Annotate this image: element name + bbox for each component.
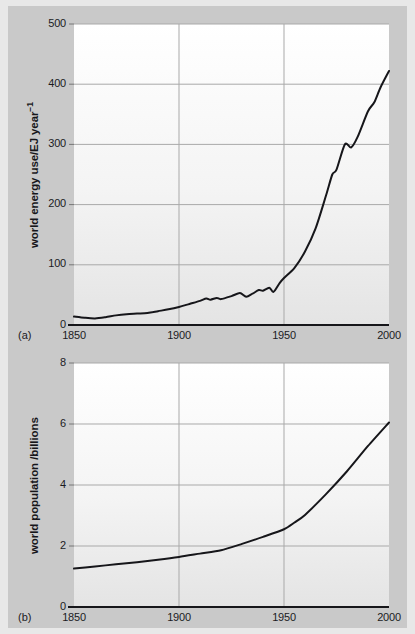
y-tick-label: 100 bbox=[48, 257, 66, 269]
axis-label-y-energy-unit: /EJ year bbox=[28, 111, 40, 154]
chart-panel-a: world energy use/EJ year−1 (a) 010020030… bbox=[8, 6, 407, 346]
x-tick-label: 1850 bbox=[44, 611, 104, 623]
panel-tag-b: (b) bbox=[18, 611, 31, 623]
population-plot-svg bbox=[8, 339, 407, 628]
axis-label-y-energy-main: world energy use bbox=[28, 155, 40, 248]
energy-plot-svg bbox=[8, 6, 407, 346]
x-tick-label: 1900 bbox=[149, 611, 209, 623]
plot-area-background bbox=[74, 24, 389, 325]
y-tick-label: 0 bbox=[60, 600, 66, 612]
y-tick-label: 500 bbox=[48, 17, 66, 29]
y-tick-label: 0 bbox=[60, 318, 66, 330]
figure-root: world energy use/EJ year−1 (a) 010020030… bbox=[0, 0, 415, 634]
y-tick-label: 300 bbox=[48, 137, 66, 149]
y-tick-label: 4 bbox=[60, 478, 66, 490]
axis-label-y-population: world population /billions bbox=[28, 417, 40, 554]
y-tick-label: 200 bbox=[48, 197, 66, 209]
axis-label-y-energy: world energy use/EJ year−1 bbox=[28, 102, 40, 248]
y-tick-label: 8 bbox=[60, 356, 66, 368]
y-tick-label: 2 bbox=[60, 539, 66, 551]
y-tick-label: 6 bbox=[60, 417, 66, 429]
x-tick-label: 1950 bbox=[254, 611, 314, 623]
axis-label-y-population-unit: /billions bbox=[28, 417, 40, 463]
axis-label-y-energy-exponent: −1 bbox=[25, 102, 35, 112]
axis-label-y-population-main: world population bbox=[28, 462, 40, 553]
x-tick-label: 2000 bbox=[359, 611, 415, 623]
y-tick-label: 400 bbox=[48, 77, 66, 89]
figure-panel: world energy use/EJ year−1 (a) 010020030… bbox=[8, 6, 407, 628]
chart-panel-b: world population /billions (b) 024681850… bbox=[8, 339, 407, 628]
